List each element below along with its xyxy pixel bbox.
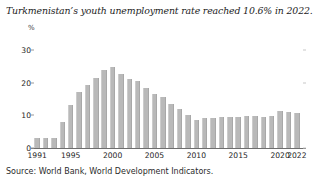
bar bbox=[135, 81, 141, 148]
bar bbox=[219, 117, 225, 148]
bar bbox=[127, 79, 133, 148]
chart-title: Turkmenistan’s youth unemployment rate r… bbox=[6, 5, 334, 17]
y-axis-tick-mark bbox=[31, 115, 34, 116]
bar bbox=[85, 85, 91, 148]
bar-series bbox=[33, 40, 301, 148]
bar bbox=[277, 111, 283, 148]
y-axis-tick-label: 20 bbox=[21, 78, 31, 87]
x-axis-tick-label: 2005 bbox=[145, 151, 164, 160]
y-axis: 0102030 bbox=[0, 40, 31, 148]
bar bbox=[235, 117, 241, 148]
x-axis-tick-label: 2000 bbox=[103, 151, 122, 160]
bar bbox=[261, 117, 267, 148]
bar bbox=[110, 67, 116, 148]
bar bbox=[143, 88, 149, 148]
bar bbox=[93, 78, 99, 148]
bar bbox=[227, 117, 233, 148]
bar bbox=[34, 138, 40, 148]
x-axis-tick-label: 1995 bbox=[61, 151, 80, 160]
bar bbox=[60, 122, 66, 148]
bar bbox=[160, 97, 166, 148]
x-axis-baseline bbox=[31, 148, 306, 149]
bar bbox=[286, 112, 292, 148]
x-axis-tick-label: 2015 bbox=[229, 151, 248, 160]
chart-figure: Turkmenistan’s youth unemployment rate r… bbox=[0, 0, 336, 188]
bar bbox=[68, 105, 74, 148]
bar bbox=[43, 138, 49, 148]
bar bbox=[252, 116, 258, 148]
x-axis-tick-label: 2010 bbox=[187, 151, 206, 160]
bar bbox=[210, 118, 216, 148]
x-axis-tick-label: 2022 bbox=[287, 151, 306, 160]
plot-area bbox=[33, 40, 301, 148]
y-axis-tick-label: 10 bbox=[21, 111, 31, 120]
bar bbox=[194, 120, 200, 148]
y-axis-tick-mark bbox=[31, 82, 34, 83]
bar bbox=[177, 109, 183, 148]
bar bbox=[101, 70, 107, 148]
y-axis-tick-mark bbox=[31, 148, 34, 149]
bar bbox=[118, 74, 124, 148]
y-axis-unit-label: % bbox=[28, 24, 35, 32]
bar bbox=[202, 118, 208, 148]
y-axis-tick-label: 30 bbox=[21, 45, 31, 54]
y-axis-tick-mark-right bbox=[303, 148, 306, 149]
bar bbox=[185, 115, 191, 148]
y-axis-tick-mark bbox=[31, 49, 34, 50]
bar bbox=[294, 113, 300, 148]
bar bbox=[244, 116, 250, 148]
source-note: Source: World Bank, World Development In… bbox=[6, 167, 213, 176]
y-axis-tick-mark-right bbox=[303, 49, 306, 50]
bar bbox=[76, 92, 82, 148]
bar bbox=[51, 138, 57, 148]
y-axis-tick-mark-right bbox=[303, 82, 306, 83]
bar bbox=[269, 116, 275, 148]
x-axis-tick-label: 1991 bbox=[28, 151, 47, 160]
bar bbox=[152, 94, 158, 148]
bar bbox=[168, 104, 174, 149]
